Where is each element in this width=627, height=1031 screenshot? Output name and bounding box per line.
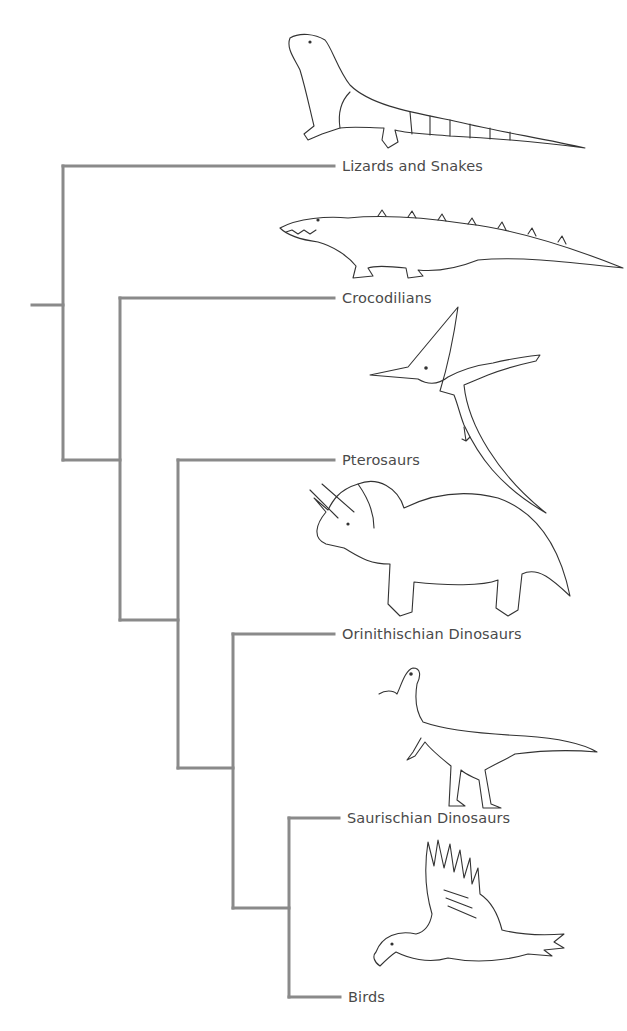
taxon-label-lizards: Lizards and Snakes [342,157,483,175]
crocodile-illustration [278,206,627,285]
komodo-lizard-illustration [280,30,600,159]
taxon-label-birds: Birds [348,988,385,1006]
theropod-illustration [375,660,600,814]
eagle-illustration [368,838,568,982]
triceratops-illustration [308,468,573,632]
